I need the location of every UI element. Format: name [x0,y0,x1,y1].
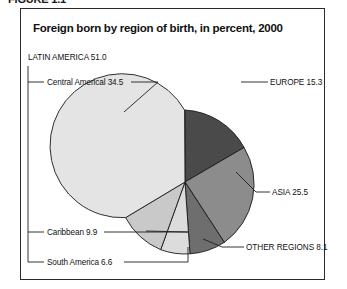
label-other-regions: OTHER REGIONS 8.1 [246,243,328,252]
latin-america-bracket [28,66,44,262]
pie-chart-figure: LATIN AMERICA 51.0 Central Americal 34.5… [0,0,347,289]
label-south-america: South America 6.6 [47,258,113,267]
pie-slices [50,74,254,254]
label-caribbean: Caribbean 9.9 [47,228,98,237]
label-europe: EUROPE 15.3 [270,78,323,87]
figure-root: FIGURE 1.1 Foreign born by region of bir… [0,0,347,289]
label-asia: ASIA 25.5 [272,188,308,197]
label-latin-america: LATIN AMERICA 51.0 [28,53,107,62]
label-central-america: Central Americal 34.5 [47,78,124,87]
